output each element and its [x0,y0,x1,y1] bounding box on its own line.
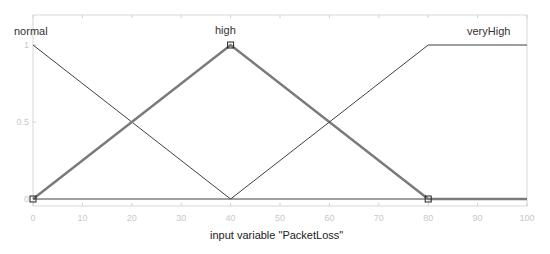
x-tick-label: 90 [473,213,483,223]
x-tick-label: 30 [176,213,186,223]
x-tick-label: 20 [127,213,137,223]
x-tick-label: 0 [30,213,35,223]
y-tick-label: 0 [24,194,29,204]
x-tick-label: 70 [374,213,384,223]
plot-area [33,15,527,206]
mf-label-veryhigh[interactable]: veryHigh [467,25,510,37]
x-tick-label: 60 [324,213,334,223]
x-tick-label: 80 [423,213,433,223]
mf-label-normal[interactable]: normal [14,25,48,37]
y-tick-label: 0.5 [16,117,29,127]
x-tick-label: 10 [77,213,87,223]
mf-label-high[interactable]: high [215,24,236,36]
x-tick-label: 50 [275,213,285,223]
x-axis-title: input variable "PacketLoss" [210,229,343,241]
membership-function-plot: 010203040506070809010000.51 normal high … [0,0,550,254]
y-tick-label: 1 [24,40,29,50]
x-tick-label: 40 [226,213,236,223]
x-tick-label: 100 [519,213,534,223]
